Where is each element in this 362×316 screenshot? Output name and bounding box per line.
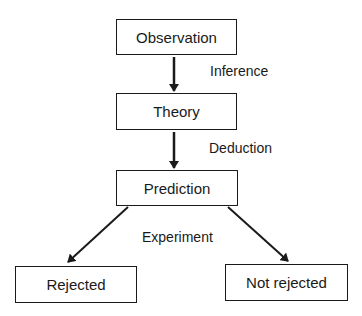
node-observation: Observation	[116, 19, 237, 55]
node-observation-label: Observation	[136, 29, 217, 46]
edge-label-deduction: Deduction	[209, 140, 272, 156]
edge-label-experiment: Experiment	[142, 229, 213, 245]
node-not-rejected: Not rejected	[225, 264, 348, 301]
node-prediction-label: Prediction	[144, 180, 211, 197]
edge-label-inference: Inference	[210, 63, 268, 79]
node-prediction: Prediction	[116, 170, 238, 206]
node-rejected-label: Rejected	[46, 276, 105, 293]
node-not-rejected-label: Not rejected	[246, 274, 327, 291]
arrow-prediction-to-not-rejected	[228, 207, 288, 261]
node-theory: Theory	[116, 93, 237, 130]
node-rejected: Rejected	[15, 266, 137, 303]
arrow-prediction-to-rejected	[68, 207, 128, 262]
node-theory-label: Theory	[153, 103, 200, 120]
